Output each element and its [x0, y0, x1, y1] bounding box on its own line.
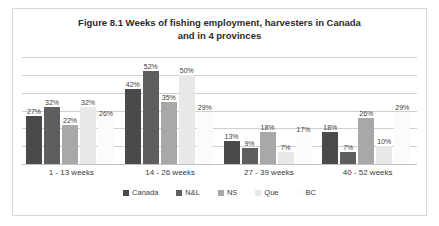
category-label: 40 - 52 weeks: [318, 168, 417, 177]
bar-value-label: 17%: [290, 126, 318, 133]
chart-legend: CanadaN&LNSQueBC: [22, 188, 417, 197]
bar-canada: [26, 116, 42, 164]
legend-swatch-icon: [297, 190, 303, 196]
bar-ns: [161, 102, 177, 164]
bar-bc: [394, 112, 410, 164]
bar-bc: [197, 112, 213, 164]
legend-label: Que: [264, 188, 278, 197]
category-axis: 1 - 13 weeks14 - 26 weeks27 - 39 weeks40…: [22, 168, 417, 177]
bar-set: 27%32%22%32%26%: [22, 57, 121, 164]
bar-bc: [98, 118, 114, 164]
bar-column: 29%: [197, 57, 213, 164]
bar-column: 27%: [26, 57, 42, 164]
bar-column: 42%: [125, 57, 141, 164]
bar-value-label: 29%: [191, 104, 219, 111]
legend-label: N&L: [185, 188, 200, 197]
legend-swatch-icon: [176, 190, 182, 196]
bar-que: [376, 146, 392, 164]
category-label: 1 - 13 weeks: [22, 168, 121, 177]
legend-swatch-icon: [123, 190, 129, 196]
axis-baseline: [22, 164, 417, 165]
bar-group: 13%9%18%7%17%: [220, 57, 319, 164]
bar-que: [179, 75, 195, 164]
bar-set: 18%7%26%10%29%: [318, 57, 417, 164]
bar-column: 9%: [242, 57, 258, 164]
legend-swatch-icon: [255, 190, 261, 196]
bar-column: 17%: [296, 57, 312, 164]
bar-column: 22%: [62, 57, 78, 164]
bar-n-l: [340, 152, 356, 164]
bar-ns: [62, 125, 78, 164]
bar-n-l: [143, 71, 159, 164]
bar-value-label: 29%: [388, 104, 416, 111]
legend-item-n-l[interactable]: N&L: [176, 188, 200, 197]
bar-column: 26%: [98, 57, 114, 164]
bar-groups: 27%32%22%32%26%42%52%35%50%29%13%9%18%7%…: [22, 57, 417, 164]
legend-label: Canada: [132, 188, 158, 197]
chart-title-line-1: Figure 8.1 Weeks of fishing employment, …: [22, 16, 417, 29]
bar-group: 18%7%26%10%29%: [318, 57, 417, 164]
category-label: 27 - 39 weeks: [220, 168, 319, 177]
legend-label: BC: [306, 188, 316, 197]
chart-title-line-2: and in 4 provinces: [22, 29, 417, 42]
legend-swatch-icon: [218, 190, 224, 196]
legend-item-que[interactable]: Que: [255, 188, 278, 197]
legend-label: NS: [227, 188, 237, 197]
bar-column: 52%: [143, 57, 159, 164]
legend-item-ns[interactable]: NS: [218, 188, 237, 197]
bar-column: 13%: [224, 57, 240, 164]
figure-container: Figure 8.1 Weeks of fishing employment, …: [0, 0, 439, 226]
bar-bc: [296, 134, 312, 164]
bar-group: 42%52%35%50%29%: [121, 57, 220, 164]
bar-set: 42%52%35%50%29%: [121, 57, 220, 164]
plot-area: 27%32%22%32%26%42%52%35%50%29%13%9%18%7%…: [22, 57, 417, 164]
bar-canada: [125, 89, 141, 164]
legend-item-canada[interactable]: Canada: [123, 188, 158, 197]
chart-title: Figure 8.1 Weeks of fishing employment, …: [22, 16, 417, 42]
legend-item-bc[interactable]: BC: [297, 188, 316, 197]
bar-column: 32%: [44, 57, 60, 164]
bar-n-l: [44, 107, 60, 164]
bar-set: 13%9%18%7%17%: [220, 57, 319, 164]
bar-n-l: [242, 148, 258, 164]
bar-column: 7%: [278, 57, 294, 164]
bar-que: [278, 152, 294, 164]
category-label: 14 - 26 weeks: [121, 168, 220, 177]
bar-value-label: 26%: [92, 110, 120, 117]
bar-group: 27%32%22%32%26%: [22, 57, 121, 164]
bar-column: 26%: [358, 57, 374, 164]
bar-column: 29%: [394, 57, 410, 164]
